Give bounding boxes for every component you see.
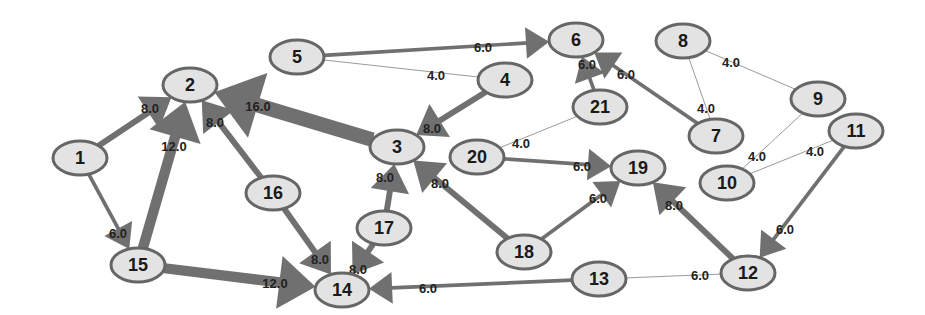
node-label: 2 — [185, 75, 195, 95]
edge-weight-label: 4.0 — [427, 68, 445, 83]
edge-3-2 — [214, 73, 372, 140]
graph-canvas: 8.06.012.08.016.08.06.04.06.06.04.04.04.… — [0, 0, 925, 315]
edge-18-19 — [542, 181, 621, 239]
node-label: 17 — [374, 218, 394, 238]
edge-15-14 — [165, 256, 316, 309]
node-8: 8 — [656, 24, 710, 58]
node-6: 6 — [549, 23, 603, 57]
node-10: 10 — [700, 166, 754, 200]
edge-13-14 — [369, 272, 572, 304]
node-label: 15 — [128, 255, 148, 275]
edge-weight-label: 6.0 — [474, 40, 492, 55]
node-label: 8 — [678, 31, 688, 51]
node-12: 12 — [721, 256, 775, 290]
node-17: 17 — [357, 211, 411, 245]
edge-weight-label: 8.0 — [431, 176, 449, 191]
node-label: 20 — [467, 147, 487, 167]
node-9: 9 — [791, 82, 845, 116]
node-label: 7 — [711, 126, 721, 146]
node-11: 11 — [829, 114, 883, 148]
node-label: 16 — [263, 183, 283, 203]
edge-weight-label: 4.0 — [722, 55, 740, 70]
node-label: 4 — [500, 70, 510, 90]
edge-weight-label: 12.0 — [161, 139, 186, 154]
node-label: 6 — [571, 30, 581, 50]
edge-weight-label: 4.0 — [806, 144, 824, 159]
arrowhead-icon — [525, 27, 549, 59]
node-label: 18 — [514, 242, 534, 262]
edge-line — [324, 60, 479, 77]
edge-weight-label: 8.0 — [311, 252, 329, 267]
edge-weight-label: 8.0 — [376, 170, 394, 185]
edge-18-3 — [413, 161, 507, 239]
edge-weight-label: 6.0 — [589, 191, 607, 206]
node-16: 16 — [246, 176, 300, 210]
edge-5-6 — [324, 27, 549, 59]
node-label: 19 — [628, 158, 648, 178]
edge-5-4 — [324, 60, 479, 77]
node-14: 14 — [315, 273, 369, 307]
edge-15-2 — [143, 102, 201, 249]
arrowhead-icon — [369, 272, 393, 304]
edge-weight-label: 6.0 — [776, 222, 794, 237]
node-20: 20 — [450, 140, 504, 174]
node-18: 18 — [497, 235, 551, 269]
edge-weight-label: 8.0 — [206, 115, 224, 130]
edge-line — [284, 209, 320, 259]
node-5: 5 — [270, 40, 324, 74]
edge-weight-label: 4.0 — [512, 136, 530, 151]
node-7: 7 — [689, 119, 743, 153]
node-21: 21 — [573, 90, 627, 124]
edge-line — [385, 280, 572, 288]
node-label: 12 — [738, 263, 758, 283]
edge-weight-label: 12.0 — [262, 276, 287, 291]
edge-weight-label: 6.0 — [573, 159, 591, 174]
edge-weight-label: 4.0 — [697, 101, 715, 116]
edge-weight-label: 6.0 — [691, 268, 709, 283]
edge-line — [433, 92, 486, 125]
node-label: 21 — [590, 97, 610, 117]
node-label: 5 — [292, 47, 302, 67]
node-15: 15 — [111, 248, 165, 282]
node-3: 3 — [370, 130, 424, 164]
node-label: 10 — [717, 173, 737, 193]
node-1: 1 — [53, 141, 107, 175]
node-label: 11 — [846, 121, 865, 141]
edge-weight-label: 16.0 — [245, 99, 270, 114]
edge-weight-label: 6.0 — [419, 281, 437, 296]
edge-line — [705, 51, 795, 90]
node-19: 19 — [611, 151, 665, 185]
edge-11-12 — [760, 146, 845, 257]
edge-weight-label: 6.0 — [617, 67, 635, 82]
edge-weight-label: 8.0 — [141, 101, 159, 116]
edge-weight-label: 6.0 — [578, 57, 596, 72]
edge-weight-label: 4.0 — [748, 149, 766, 164]
node-2: 2 — [163, 68, 217, 102]
node-label: 1 — [75, 148, 85, 168]
node-label: 14 — [332, 280, 352, 300]
node-13: 13 — [572, 262, 626, 296]
node-4: 4 — [478, 63, 532, 97]
edge-weight-label: 6.0 — [109, 226, 127, 241]
edge-8-9 — [705, 51, 795, 90]
edge-20-19 — [504, 149, 611, 181]
edge-weight-label: 8.0 — [665, 198, 683, 213]
edge-line — [324, 43, 533, 56]
node-label: 3 — [392, 137, 402, 157]
node-label: 13 — [589, 269, 609, 289]
nodes-layer: 123456789101112131415161718192021 — [53, 23, 883, 307]
node-label: 9 — [813, 89, 823, 109]
edge-weight-label: 8.0 — [423, 121, 441, 136]
